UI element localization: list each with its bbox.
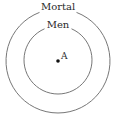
- point-a-dot: [56, 59, 60, 63]
- point-a-label: A: [60, 51, 68, 61]
- outer-circle-label: Mortal: [41, 1, 75, 12]
- inner-circle-label: Men: [47, 19, 70, 30]
- euler-diagram: Mortal Men A: [0, 0, 116, 117]
